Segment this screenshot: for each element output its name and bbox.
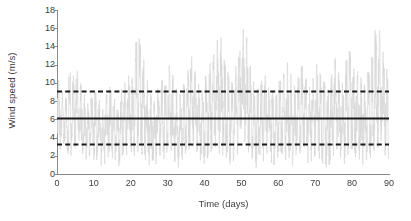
- plot-area: [57, 10, 389, 174]
- x-tick-label: 60: [265, 178, 291, 188]
- x-axis-tick-labels: 0102030405060708090: [57, 178, 390, 190]
- y-tick-mark: [54, 10, 57, 11]
- y-tick-label: 2: [24, 151, 55, 160]
- x-axis-title: Time (days): [57, 198, 390, 209]
- x-tick-label: 10: [81, 178, 107, 188]
- y-tick-label: 18: [24, 6, 55, 15]
- y-tick-label: 6: [24, 115, 55, 124]
- x-tick-label: 90: [376, 178, 402, 188]
- x-tick-label: 70: [302, 178, 328, 188]
- y-tick-mark: [54, 28, 57, 29]
- y-tick-label: 8: [24, 97, 55, 106]
- y-tick-label: 14: [24, 42, 55, 51]
- x-tick-label: 40: [192, 178, 218, 188]
- y-tick-label: 16: [24, 24, 55, 33]
- y-tick-label: 12: [24, 60, 55, 69]
- y-tick-label: 4: [24, 133, 55, 142]
- wind-speed-chart: Wind speed (m/s) 024681012141618 0102030…: [0, 0, 411, 221]
- y-tick-mark: [54, 138, 57, 139]
- y-axis-title: Wind speed (m/s): [6, 52, 17, 128]
- x-tick-label: 0: [44, 178, 70, 188]
- y-tick-mark: [54, 156, 57, 157]
- y-tick-label: 10: [24, 78, 55, 87]
- x-tick-label: 30: [155, 178, 181, 188]
- y-tick-mark: [54, 119, 57, 120]
- x-axis-line: [57, 174, 390, 175]
- y-tick-mark: [54, 101, 57, 102]
- reference-lines-canvas: [57, 10, 389, 174]
- y-tick-mark: [54, 46, 57, 47]
- y-tick-mark: [54, 83, 57, 84]
- y-axis-title-container: Wind speed (m/s): [0, 0, 22, 180]
- x-tick-label: 50: [228, 178, 254, 188]
- y-tick-mark: [54, 174, 57, 175]
- y-axis-tick-labels: 024681012141618: [24, 0, 55, 180]
- x-tick-label: 20: [118, 178, 144, 188]
- y-tick-mark: [54, 65, 57, 66]
- x-tick-label: 80: [339, 178, 365, 188]
